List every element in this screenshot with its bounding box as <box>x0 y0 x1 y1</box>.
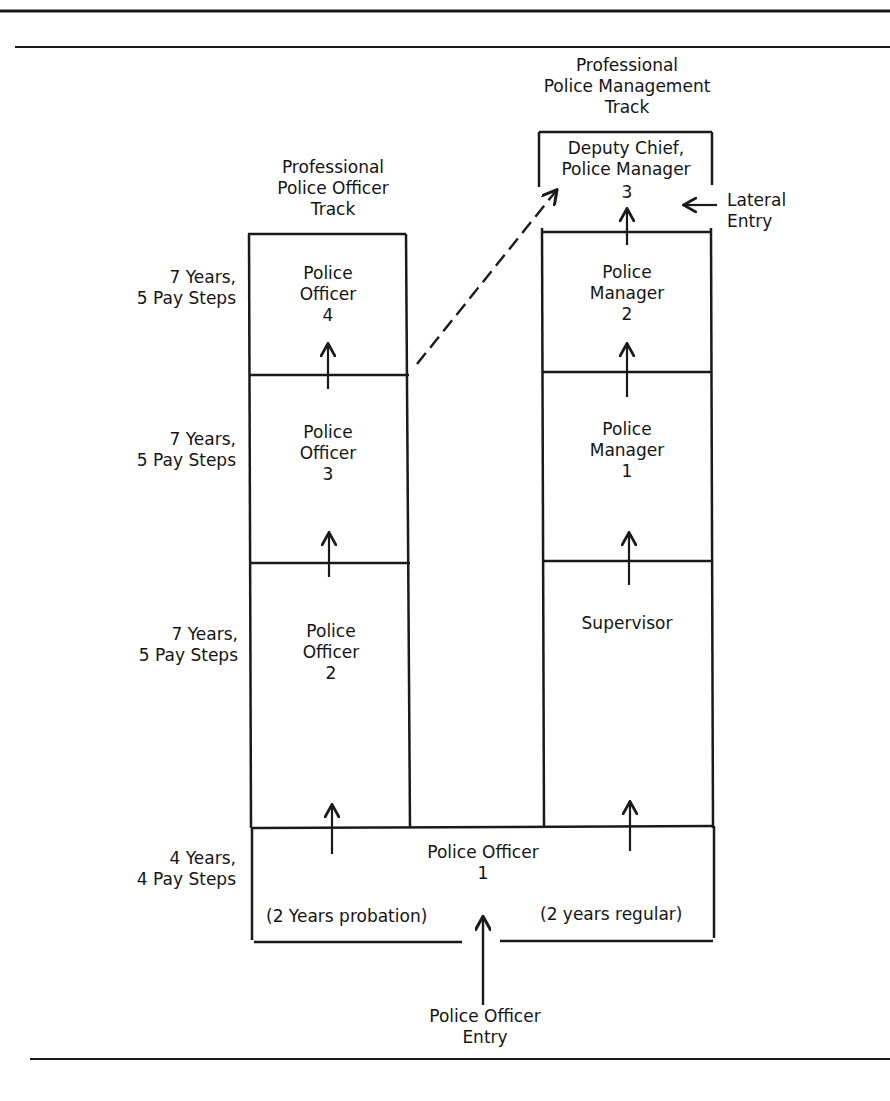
officer-track-label: Professional Police Officer Track <box>258 157 408 220</box>
dashed-transfer-arrow-icon <box>417 191 556 364</box>
officer-level-3-duration: 7 Years, 5 Pay Steps <box>90 429 236 471</box>
supervisor-title: Supervisor <box>557 613 697 634</box>
manager-level-1-title: Police Manager 1 <box>557 419 697 482</box>
officer-level-2-duration: 7 Years, 5 Pay Steps <box>92 624 238 666</box>
manager-level-2-title: Police Manager 2 <box>557 262 697 325</box>
career-ladder-diagram <box>0 0 890 1101</box>
entry-label: Police Officer Entry <box>400 1006 570 1048</box>
lateral-entry-label: Lateral Entry <box>727 190 817 232</box>
officer-level-3-title: Police Officer 3 <box>258 422 398 485</box>
base-level-duration: 4 Years, 4 Pay Steps <box>90 848 236 890</box>
management-track-label: Professional Police Management Track <box>532 55 722 118</box>
deputy-chief-title: Deputy Chief, Police Manager <box>540 138 712 180</box>
deputy-chief-number: 3 <box>607 182 647 203</box>
regular-note: (2 years regular) <box>540 904 720 925</box>
base-level-title: Police Officer 1 <box>393 842 573 884</box>
officer-level-4-duration: 7 Years, 5 Pay Steps <box>90 267 236 309</box>
officer-level-4-title: Police Officer 4 <box>258 263 398 326</box>
probation-note: (2 Years probation) <box>266 906 466 927</box>
officer-level-2-title: Police Officer 2 <box>261 621 401 684</box>
